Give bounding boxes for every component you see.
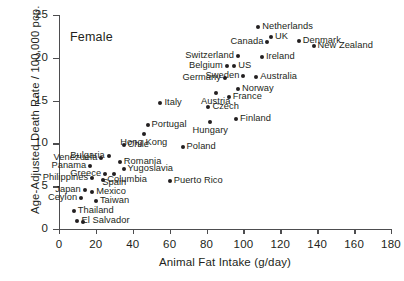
data-point xyxy=(269,35,273,39)
data-point-label: Taiwan xyxy=(100,196,129,205)
data-point xyxy=(241,74,245,78)
y-tick-label: 0 xyxy=(0,222,48,234)
x-tick-label: 120 xyxy=(260,238,300,250)
data-point xyxy=(312,44,316,48)
data-point xyxy=(265,40,269,44)
y-tick-mark xyxy=(53,15,59,16)
y-tick-label: 10 xyxy=(0,136,48,148)
x-tick-mark xyxy=(317,229,318,234)
x-axis-line xyxy=(59,229,391,230)
data-point-label: Australia xyxy=(260,72,297,81)
data-point xyxy=(90,176,94,180)
data-point-label: Philippines xyxy=(43,174,89,183)
data-point-label: Poland xyxy=(187,142,216,151)
data-point xyxy=(107,154,111,158)
x-tick-label: 80 xyxy=(187,238,227,250)
y-tick-label: 5 xyxy=(0,179,48,191)
data-point xyxy=(146,123,150,127)
data-point xyxy=(101,178,105,182)
x-tick-mark xyxy=(207,229,208,234)
data-point xyxy=(214,91,218,95)
data-point-label: Chile xyxy=(128,140,149,149)
data-point xyxy=(79,196,83,200)
data-point xyxy=(118,160,122,164)
data-point xyxy=(99,156,103,160)
data-point-label: Czech xyxy=(212,103,239,112)
data-point-label: Puerto Rico xyxy=(174,176,223,185)
data-point-label: France xyxy=(233,93,262,102)
data-point-label: Yugoslavia xyxy=(128,164,173,173)
data-point-label: New Zealand xyxy=(318,41,373,50)
data-point xyxy=(90,190,94,194)
data-point xyxy=(236,54,240,58)
data-point-label: Portugal xyxy=(152,120,187,129)
x-tick-mark xyxy=(133,229,134,234)
data-point xyxy=(72,209,76,213)
x-tick-label: 180 xyxy=(371,238,404,250)
data-point-label: Ireland xyxy=(266,52,295,61)
x-tick-label: 0 xyxy=(39,238,79,250)
data-point-label: Finland xyxy=(240,115,271,124)
x-tick-mark xyxy=(96,229,97,234)
data-point xyxy=(88,164,92,168)
x-tick-label: 60 xyxy=(150,238,190,250)
x-tick-mark xyxy=(243,229,244,234)
x-tick-mark xyxy=(354,229,355,234)
data-point xyxy=(94,199,98,203)
data-point-label: Netherlands xyxy=(262,22,313,31)
data-point-label: Switzerland xyxy=(185,51,234,60)
data-point xyxy=(227,95,231,99)
y-tick-mark xyxy=(53,101,59,102)
data-point xyxy=(75,219,79,223)
data-point-label: US xyxy=(238,62,251,71)
scatter-chart: Age-Adjusted Death Rate / 100,000 pcp. A… xyxy=(0,0,404,281)
data-point xyxy=(206,105,210,109)
data-point xyxy=(122,167,126,171)
data-point xyxy=(297,39,301,43)
data-point-label: Canada xyxy=(231,37,264,46)
plot-annotation-female: Female xyxy=(70,30,113,44)
y-tick-label: 15 xyxy=(0,94,48,106)
y-tick-label: 20 xyxy=(0,51,48,63)
y-tick-mark xyxy=(53,58,59,59)
data-point xyxy=(256,25,260,29)
x-tick-label: 100 xyxy=(223,238,263,250)
data-point-label: UK xyxy=(275,33,288,42)
x-tick-label: 20 xyxy=(76,238,116,250)
data-point xyxy=(122,143,126,147)
data-point xyxy=(260,55,264,59)
x-axis-title: Animal Fat Intake (g/day) xyxy=(59,256,391,268)
data-point xyxy=(142,132,146,136)
data-point-label: Thailand xyxy=(78,206,114,215)
data-point-label: Columbia xyxy=(107,176,147,185)
x-tick-mark xyxy=(59,229,60,234)
x-tick-label: 140 xyxy=(297,238,337,250)
data-point xyxy=(254,75,258,79)
data-point xyxy=(83,188,87,192)
data-point-label: El Salvador xyxy=(81,217,129,226)
data-point-label: Ceylon xyxy=(48,194,77,203)
x-tick-label: 40 xyxy=(113,238,153,250)
x-tick-mark xyxy=(170,229,171,234)
data-point xyxy=(81,220,85,224)
x-tick-mark xyxy=(391,229,392,234)
data-point-label: Italy xyxy=(164,99,181,108)
data-point xyxy=(223,76,227,80)
data-point xyxy=(181,145,185,149)
x-tick-mark xyxy=(280,229,281,234)
data-point xyxy=(168,179,172,183)
data-point xyxy=(232,64,236,68)
data-point-label: Germany xyxy=(182,74,221,83)
data-point xyxy=(158,101,162,105)
data-point xyxy=(225,64,229,68)
y-tick-mark xyxy=(53,143,59,144)
x-tick-label: 160 xyxy=(334,238,374,250)
y-tick-label: 25 xyxy=(0,8,48,20)
data-point-label: Hungary xyxy=(192,126,228,135)
data-point xyxy=(208,120,212,124)
data-point xyxy=(234,117,238,121)
